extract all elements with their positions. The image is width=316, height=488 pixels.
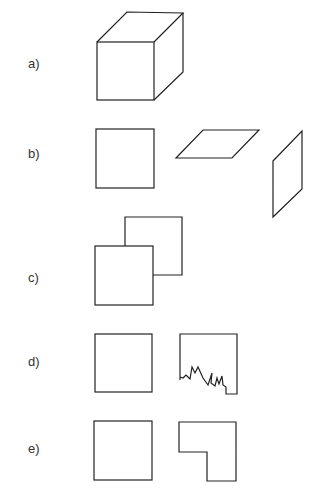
- front-square-c: [95, 246, 153, 305]
- vertical-parallelogram: [273, 131, 302, 217]
- square-e: [94, 421, 152, 480]
- figure-canvas: [0, 0, 316, 488]
- cube-shape: [97, 12, 183, 100]
- square-b: [96, 129, 154, 188]
- torn-square-d: [180, 334, 237, 394]
- l-shape-e: [179, 422, 236, 481]
- horizontal-parallelogram: [176, 130, 259, 158]
- square-d: [95, 334, 152, 392]
